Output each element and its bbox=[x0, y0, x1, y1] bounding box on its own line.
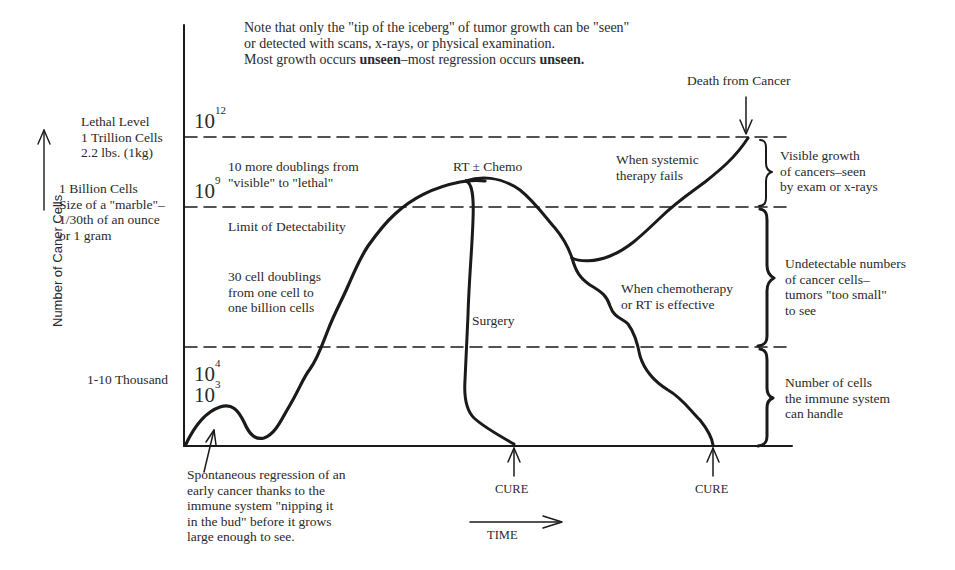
limit-detectability-label: Limit of Detectability bbox=[228, 219, 346, 235]
ten-doublings-note: 10 more doublings from "visible" to "let… bbox=[228, 159, 359, 190]
systemic-fails-label: When systemic therapy fails bbox=[616, 152, 699, 183]
surgery-label: Surgery bbox=[472, 313, 515, 329]
power-10-3: 103 bbox=[194, 380, 221, 406]
visible-bracket bbox=[759, 140, 772, 206]
iceberg-note: Note that only the "tip of the iceberg" … bbox=[244, 20, 629, 68]
time-axis-label: TIME bbox=[487, 528, 518, 544]
note-line-2: or detected with scans, x-rays, or physi… bbox=[244, 36, 629, 52]
note-line-3: Most growth occurs unseen–most regressio… bbox=[244, 52, 629, 68]
undetectable-label: Undetectable numbers of cancer cells– tu… bbox=[785, 256, 906, 318]
immune-bracket bbox=[758, 349, 773, 446]
billion-level-desc: 1 Billion Cells Size of a "marble"– 1/30… bbox=[59, 181, 165, 243]
thirty-doublings-note: 30 cell doublings from one cell to one b… bbox=[228, 269, 321, 316]
death-from-cancer-label: Death from Cancer bbox=[687, 73, 790, 89]
chemo-effective-label: When chemotherapy or RT is effective bbox=[621, 281, 733, 312]
note-line-1: Note that only the "tip of the iceberg" … bbox=[244, 20, 629, 36]
cure-label-chemo: CURE bbox=[695, 482, 728, 498]
immune-capacity-label: Number of cells the immune system can ha… bbox=[785, 375, 890, 422]
cure-label-surgery: CURE bbox=[495, 482, 528, 498]
undetectable-bracket bbox=[758, 209, 774, 346]
power-10-9: 109 bbox=[194, 176, 221, 202]
visible-growth-label: Visible growth of cancers–seen by exam o… bbox=[780, 148, 878, 195]
thousand-level-desc: 1-10 Thousand bbox=[87, 372, 168, 388]
rt-chemo-label: RT ± Chemo bbox=[453, 159, 522, 175]
spontaneous-regression-note: Spontaneous regression of an early cance… bbox=[187, 467, 346, 545]
power-10-12: 1012 bbox=[194, 106, 226, 132]
lethal-level-desc: Lethal Level 1 Trillion Cells 2.2 lbs. (… bbox=[81, 114, 163, 161]
